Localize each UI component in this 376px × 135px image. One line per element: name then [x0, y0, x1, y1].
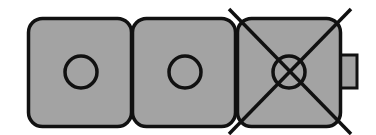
module-1: [29, 19, 132, 127]
module-2-body: [133, 19, 236, 127]
module-1-body: [29, 19, 132, 127]
module-2: [133, 19, 236, 127]
module-3: [229, 9, 351, 134]
diagram-canvas: [0, 0, 376, 135]
module-diagram: [0, 0, 376, 135]
side-tab: [340, 55, 357, 88]
